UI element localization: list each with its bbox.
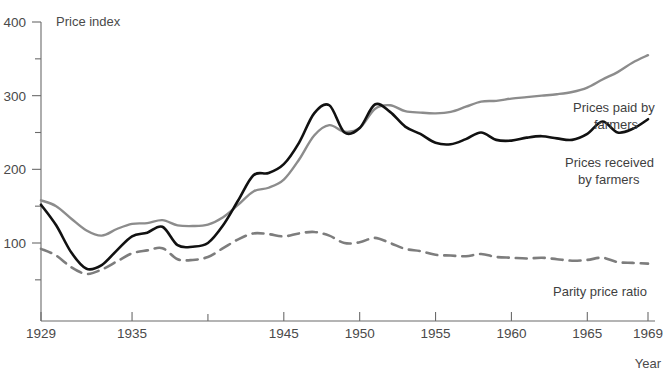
annotation-prices-paid-line1: Prices paid by (573, 100, 655, 115)
series-line-prices-received (41, 104, 648, 270)
chart-root: 100200300400 192919351945195019551960196… (0, 0, 670, 371)
annotation-prices-received-line2: by farmers (578, 172, 640, 187)
x-tick-label-1955: 1955 (421, 326, 451, 341)
x-axis-tick-labels: 19291935194519501955196019651969 (26, 326, 663, 341)
annotation-prices-received-line1: Prices received (565, 155, 654, 170)
series-line-prices-paid (41, 55, 648, 235)
x-tick-label-1969: 1969 (633, 326, 663, 341)
y-axis-tick-labels: 100200300400 (3, 15, 26, 251)
x-axis-ticks (41, 312, 648, 321)
annotation-prices-paid-line2: farmers (594, 117, 639, 132)
x-tick-label-1929: 1929 (26, 326, 56, 341)
x-axis-title: Year (635, 356, 662, 371)
x-tick-label-1935: 1935 (117, 326, 147, 341)
annotation-parity-price-ratio: Parity price ratio (553, 284, 647, 299)
x-tick-label-1945: 1945 (269, 326, 299, 341)
line-chart-plot: 100200300400 192919351945195019551960196… (0, 0, 670, 371)
y-tick-label-100: 100 (3, 236, 26, 251)
series-line-parity-price-ratio (41, 232, 648, 274)
y-axis-title: Price index (56, 14, 121, 29)
y-tick-label-400: 400 (3, 15, 26, 30)
y-tick-label-200: 200 (3, 162, 26, 177)
y-axis-ticks (32, 22, 41, 280)
x-tick-label-1950: 1950 (345, 326, 375, 341)
y-tick-label-300: 300 (3, 89, 26, 104)
x-tick-label-1960: 1960 (496, 326, 526, 341)
x-tick-label-1965: 1965 (572, 326, 602, 341)
